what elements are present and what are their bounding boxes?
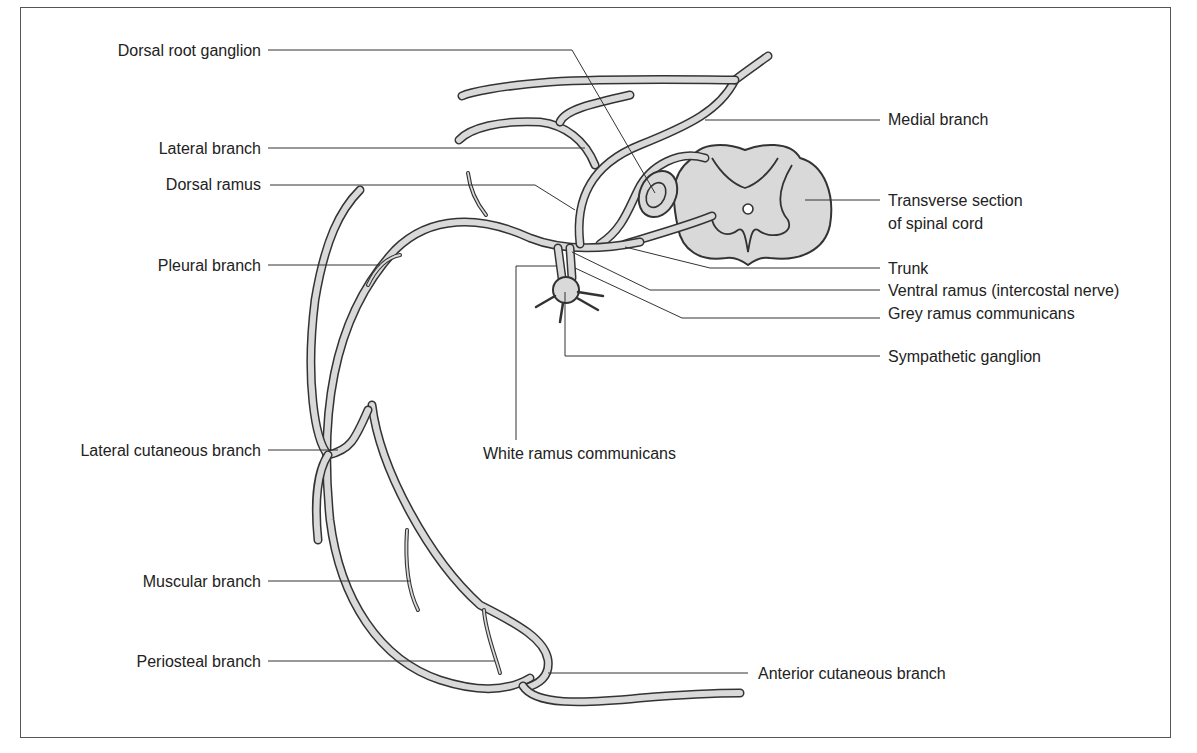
- label-medial-branch: Medial branch: [888, 110, 989, 129]
- label-anterior-cutaneous-branch: Anterior cutaneous branch: [758, 664, 946, 683]
- label-dorsal-ramus: Dorsal ramus: [166, 175, 261, 194]
- label-grey-ramus: Grey ramus communicans: [888, 304, 1075, 323]
- label-muscular-branch: Muscular branch: [143, 572, 261, 591]
- label-dorsal-root-ganglion: Dorsal root ganglion: [118, 41, 261, 60]
- label-white-ramus: White ramus communicans: [483, 444, 676, 463]
- label-sympathetic-ganglion: Sympathetic ganglion: [888, 347, 1041, 366]
- label-transverse-section-line2: of spinal cord: [888, 214, 983, 233]
- label-transverse-section-line1: Transverse section: [888, 191, 1023, 210]
- label-ventral-ramus: Ventral ramus (intercostal nerve): [888, 281, 1119, 300]
- sympathetic-chain: [536, 248, 603, 322]
- label-lateral-branch: Lateral branch: [159, 139, 261, 158]
- label-trunk: Trunk: [888, 259, 928, 278]
- label-pleural-branch: Pleural branch: [158, 256, 261, 275]
- spinal-nerve-illustration: [0, 0, 1197, 753]
- leader-lines: [268, 50, 880, 673]
- label-lateral-cutaneous-branch: Lateral cutaneous branch: [80, 441, 261, 460]
- label-periosteal-branch: Periosteal branch: [136, 652, 261, 671]
- spinal-cord-section: [674, 145, 831, 265]
